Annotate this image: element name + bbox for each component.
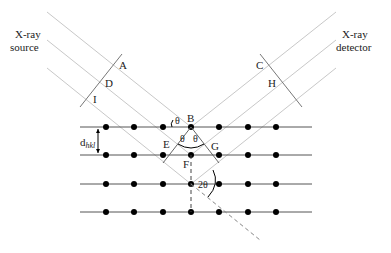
bragg-diagram: X-ray source X-ray detector A D I C H B … (0, 0, 391, 253)
point-D: D (105, 77, 113, 89)
point-F: F (183, 158, 189, 170)
point-E: E (163, 138, 170, 150)
theta-arc (171, 120, 173, 127)
diffracted-wavefront (260, 54, 302, 107)
incident-wavefront (80, 54, 122, 107)
d-spacing-label: dhkl (80, 136, 96, 150)
theta-left-label: θ (180, 133, 185, 144)
point-I: I (93, 93, 97, 105)
theta-right-label: θ (193, 133, 198, 144)
point-C: C (256, 59, 263, 71)
diffracted-rays (191, 12, 336, 184)
source-label-line1: X-ray (15, 28, 41, 40)
point-H: H (268, 77, 276, 89)
diffracted-ray-3 (191, 68, 336, 184)
detector-label-line2: detector (336, 41, 372, 53)
detector-label-line1: X-ray (342, 28, 368, 40)
diffracted-ray-2 (191, 40, 336, 155)
incident-rays (47, 12, 191, 184)
source-label-line2: source (10, 41, 39, 53)
incident-ray-3 (47, 68, 191, 184)
point-A: A (119, 59, 127, 71)
point-G: G (211, 140, 219, 152)
point-B: B (187, 112, 194, 124)
two-theta-label: 2θ (198, 179, 208, 190)
diffracted-ray-1 (191, 12, 336, 127)
theta-label: θ (175, 115, 180, 126)
